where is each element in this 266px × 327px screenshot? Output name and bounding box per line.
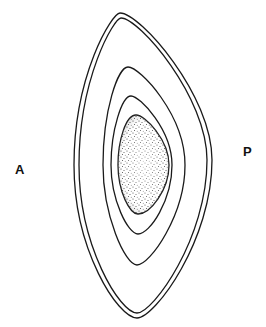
core-shading — [118, 115, 169, 214]
anterior-label: A — [15, 163, 24, 176]
concentric-lens-diagram — [0, 0, 266, 327]
posterior-label: P — [243, 145, 252, 158]
